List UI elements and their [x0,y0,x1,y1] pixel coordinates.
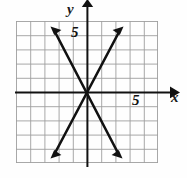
coordinate-plane [0,0,187,178]
axis-lines [16,7,170,166]
y-axis-tick-label-5: 5 [71,25,79,40]
graph-figure: y x 5 5 [0,0,187,178]
line-positive-arrow-up [113,27,124,36]
line-positive-arrow-down [51,150,62,159]
y-axis-arrowhead [82,0,93,7]
line-negative-arrow-down [112,150,123,159]
x-axis-label: x [171,90,179,105]
line-negative-arrow-up [51,27,62,36]
y-axis-label: y [67,2,74,17]
x-axis-tick-label-5: 5 [132,93,140,108]
